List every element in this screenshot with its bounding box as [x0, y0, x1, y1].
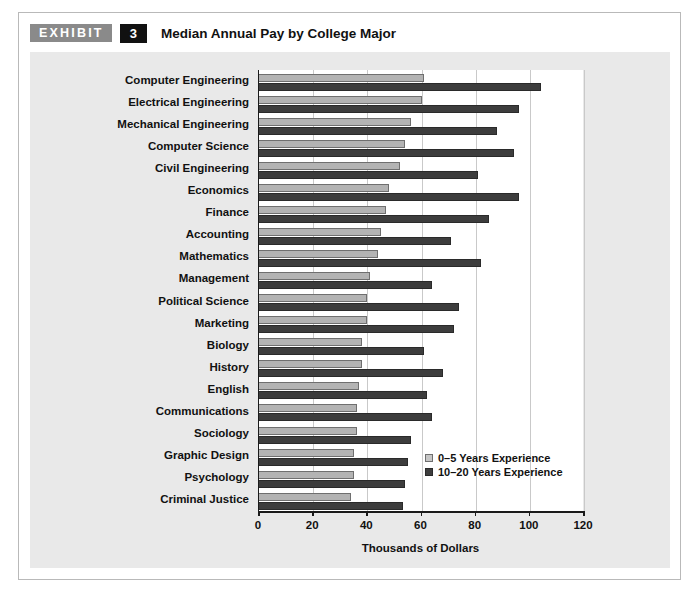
- bar-10-20-years: [259, 127, 497, 135]
- bar-10-20-years: [259, 215, 489, 223]
- exhibit-number: 3: [120, 24, 147, 43]
- exhibit-page: EXHIBIT 3 Median Annual Pay by College M…: [0, 0, 699, 596]
- legend-item: 10–20 Years Experience: [425, 466, 563, 478]
- category-label: Marketing: [29, 317, 249, 329]
- x-tick-mark: [583, 511, 585, 516]
- bar-0-5-years: [259, 493, 351, 501]
- x-axis-title: Thousands of Dollars: [258, 542, 583, 554]
- category-label: Political Science: [29, 295, 249, 307]
- bar-10-20-years: [259, 149, 514, 157]
- bar-0-5-years: [259, 404, 357, 412]
- bar-row: [259, 70, 583, 92]
- chart-legend: 0–5 Years Experience10–20 Years Experien…: [425, 452, 563, 478]
- x-tick-mark: [421, 511, 423, 516]
- bar-row: [259, 423, 583, 445]
- legend-swatch-icon: [425, 454, 433, 462]
- x-tick-label: 100: [519, 519, 538, 531]
- category-label: Communications: [29, 405, 249, 417]
- bar-row: [259, 136, 583, 158]
- exhibit-header: EXHIBIT 3 Median Annual Pay by College M…: [30, 22, 396, 44]
- bar-row: [259, 158, 583, 180]
- x-tick-mark: [475, 511, 477, 516]
- x-tick-mark: [366, 511, 368, 516]
- bar-row: [259, 379, 583, 401]
- bar-10-20-years: [259, 259, 481, 267]
- bar-row: [259, 246, 583, 268]
- category-label: Management: [29, 272, 249, 284]
- category-label: English: [29, 383, 249, 395]
- bar-0-5-years: [259, 338, 362, 346]
- bar-0-5-years: [259, 74, 424, 82]
- bar-row: [259, 489, 583, 511]
- bar-10-20-years: [259, 105, 519, 113]
- bar-0-5-years: [259, 316, 367, 324]
- bar-10-20-years: [259, 347, 424, 355]
- x-tick-mark: [529, 511, 531, 516]
- category-label: Computer Science: [29, 140, 249, 152]
- category-label: Psychology: [29, 471, 249, 483]
- x-tick-mark: [312, 511, 314, 516]
- legend-label: 10–20 Years Experience: [438, 466, 563, 478]
- bar-row: [259, 114, 583, 136]
- bar-0-5-years: [259, 382, 359, 390]
- legend-item: 0–5 Years Experience: [425, 452, 563, 464]
- bar-10-20-years: [259, 83, 541, 91]
- category-label: Accounting: [29, 228, 249, 240]
- bar-0-5-years: [259, 162, 400, 170]
- x-tick-label: 0: [255, 519, 261, 531]
- bar-row: [259, 224, 583, 246]
- category-label: Biology: [29, 339, 249, 351]
- category-axis-labels: Computer EngineeringElectrical Engineeri…: [30, 70, 255, 511]
- bar-0-5-years: [259, 360, 362, 368]
- plot-area: [259, 70, 583, 511]
- gridline-120: [584, 70, 585, 511]
- bar-row: [259, 202, 583, 224]
- exhibit-title: Median Annual Pay by College Major: [161, 26, 396, 41]
- bar-row: [259, 268, 583, 290]
- x-tick-label: 80: [468, 519, 481, 531]
- plot-shell: [258, 70, 583, 511]
- bar-0-5-years: [259, 427, 357, 435]
- x-tick-label: 60: [414, 519, 427, 531]
- bar-10-20-years: [259, 325, 454, 333]
- bar-0-5-years: [259, 228, 381, 236]
- bar-row: [259, 291, 583, 313]
- x-tick-label: 20: [306, 519, 319, 531]
- bar-10-20-years: [259, 237, 451, 245]
- bar-10-20-years: [259, 502, 403, 510]
- bar-row: [259, 335, 583, 357]
- bar-10-20-years: [259, 436, 411, 444]
- bar-row: [259, 401, 583, 423]
- bar-0-5-years: [259, 184, 389, 192]
- bar-row: [259, 180, 583, 202]
- bar-10-20-years: [259, 281, 432, 289]
- category-label: Sociology: [29, 427, 249, 439]
- bar-0-5-years: [259, 272, 370, 280]
- bar-10-20-years: [259, 480, 405, 488]
- category-label: Criminal Justice: [29, 493, 249, 505]
- bar-0-5-years: [259, 96, 422, 104]
- chart-panel: Computer EngineeringElectrical Engineeri…: [30, 52, 670, 568]
- bar-row: [259, 357, 583, 379]
- x-tick-label: 120: [573, 519, 592, 531]
- bar-0-5-years: [259, 140, 405, 148]
- bar-10-20-years: [259, 303, 459, 311]
- bar-10-20-years: [259, 369, 443, 377]
- bar-10-20-years: [259, 171, 478, 179]
- category-label: Finance: [29, 206, 249, 218]
- bar-0-5-years: [259, 471, 354, 479]
- category-label: Computer Engineering: [29, 74, 249, 86]
- bar-0-5-years: [259, 250, 378, 258]
- bar-0-5-years: [259, 118, 411, 126]
- bar-0-5-years: [259, 294, 367, 302]
- legend-swatch-icon: [425, 468, 433, 476]
- category-label: Mathematics: [29, 250, 249, 262]
- category-label: Electrical Engineering: [29, 96, 249, 108]
- category-label: Civil Engineering: [29, 162, 249, 174]
- bar-0-5-years: [259, 449, 354, 457]
- category-label: History: [29, 361, 249, 373]
- category-label: Economics: [29, 184, 249, 196]
- bar-10-20-years: [259, 193, 519, 201]
- category-label: Graphic Design: [29, 449, 249, 461]
- bar-row: [259, 313, 583, 335]
